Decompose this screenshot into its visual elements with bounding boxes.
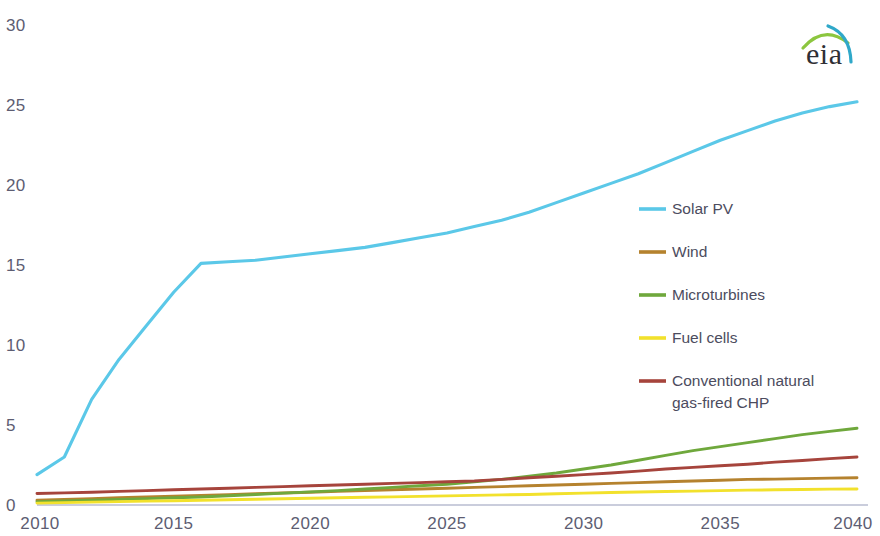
x-tick-2040: 2040 bbox=[833, 514, 872, 533]
y-tick-5: 5 bbox=[6, 416, 16, 435]
y-tick-25: 25 bbox=[6, 96, 26, 115]
x-tick-2010: 2010 bbox=[20, 514, 59, 533]
y-tick-20: 20 bbox=[6, 176, 26, 195]
line-chart: 051015202530 201020152020202520302035204… bbox=[0, 0, 880, 536]
legend-label-fuel-cells: Fuel cells bbox=[672, 329, 738, 346]
y-axis-tick-labels: 051015202530 bbox=[6, 16, 26, 515]
y-tick-30: 30 bbox=[6, 16, 26, 35]
y-tick-0: 0 bbox=[6, 496, 16, 515]
legend-label-solar-pv: Solar PV bbox=[672, 200, 734, 217]
x-tick-2025: 2025 bbox=[427, 514, 466, 533]
chart-container: 051015202530 201020152020202520302035204… bbox=[0, 0, 880, 536]
x-tick-2015: 2015 bbox=[154, 514, 193, 533]
legend-label-gas-fired-chp: gas-fired CHP bbox=[672, 394, 769, 411]
x-axis-tick-labels: 2010201520202025203020352040 bbox=[20, 514, 872, 533]
eia-logo: eia bbox=[803, 26, 851, 70]
legend-label-conventional-natural: Conventional natural bbox=[672, 372, 814, 389]
legend-label-wind: Wind bbox=[672, 243, 707, 260]
y-tick-15: 15 bbox=[6, 256, 26, 275]
chart-legend: Solar PVWindMicroturbinesFuel cellsConve… bbox=[639, 200, 814, 411]
legend-label-microturbines: Microturbines bbox=[672, 286, 765, 303]
y-tick-10: 10 bbox=[6, 336, 26, 355]
x-tick-2035: 2035 bbox=[701, 514, 740, 533]
x-tick-2030: 2030 bbox=[564, 514, 603, 533]
x-tick-2020: 2020 bbox=[291, 514, 330, 533]
eia-logo-text: eia bbox=[806, 37, 842, 70]
